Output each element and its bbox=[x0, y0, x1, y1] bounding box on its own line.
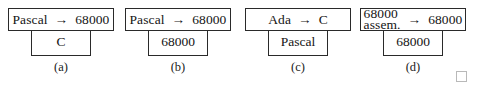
t-diagram-a-top-bar: Pascal → 68000 bbox=[8, 8, 114, 31]
t-diagram-d-bar-text: 68000 assem. → 68000 bbox=[364, 9, 463, 30]
right-arrow-icon: → bbox=[55, 12, 69, 26]
t-diagram-b-implementation-language: 68000 bbox=[161, 35, 195, 49]
t-diagram-d-top-bar: 68000 assem. → 68000 bbox=[360, 8, 466, 31]
t-diagram-b-stem: 68000 bbox=[148, 30, 208, 56]
t-diagram-d-source-language: 68000 assem. bbox=[364, 9, 401, 30]
t-diagram-d-caption: (d) bbox=[360, 61, 466, 74]
t-diagram-figure: Pascal → 68000 C (a) Pascal → 68000 6800… bbox=[0, 0, 480, 93]
t-diagram-b-top-bar: Pascal → 68000 bbox=[125, 8, 231, 31]
t-diagram-c-target-language: C bbox=[319, 13, 328, 27]
t-diagram-d-source-line-2: assem. bbox=[364, 20, 401, 31]
t-diagram-c-top-bar: Ada → C bbox=[245, 8, 351, 31]
t-diagram-d-implementation-language: 68000 bbox=[396, 35, 430, 49]
t-diagram-b-bar-text: Pascal → 68000 bbox=[130, 13, 227, 27]
right-arrow-icon: → bbox=[298, 12, 312, 26]
t-diagram-b-caption: (b) bbox=[125, 61, 231, 74]
t-diagram-d-stem: 68000 bbox=[383, 30, 443, 56]
t-diagram-b: Pascal → 68000 68000 (b) bbox=[125, 8, 237, 88]
t-diagram-d-target-language: 68000 bbox=[428, 13, 462, 27]
t-diagram-c-stem: Pascal bbox=[268, 30, 328, 56]
right-arrow-icon: → bbox=[408, 12, 422, 26]
t-diagram-c-source-language: Ada bbox=[268, 13, 291, 27]
t-diagram-c-implementation-language: Pascal bbox=[281, 35, 316, 49]
right-arrow-icon: → bbox=[172, 12, 186, 26]
t-diagram-a-caption: (a) bbox=[8, 61, 114, 74]
t-diagram-b-target-language: 68000 bbox=[192, 13, 226, 27]
t-diagram-c-caption: (c) bbox=[245, 61, 351, 74]
corner-square-marker bbox=[456, 71, 467, 82]
t-diagram-c: Ada → C Pascal (c) bbox=[245, 8, 357, 88]
t-diagram-a-implementation-language: C bbox=[56, 35, 65, 49]
t-diagram-a: Pascal → 68000 C (a) bbox=[8, 8, 120, 88]
t-diagram-c-bar-text: Ada → C bbox=[268, 13, 328, 27]
t-diagram-a-bar-text: Pascal → 68000 bbox=[13, 13, 110, 27]
t-diagram-b-source-language: Pascal bbox=[130, 13, 165, 27]
t-diagram-a-source-language: Pascal bbox=[13, 13, 48, 27]
t-diagram-a-target-language: 68000 bbox=[75, 13, 109, 27]
t-diagram-a-stem: C bbox=[31, 30, 91, 56]
